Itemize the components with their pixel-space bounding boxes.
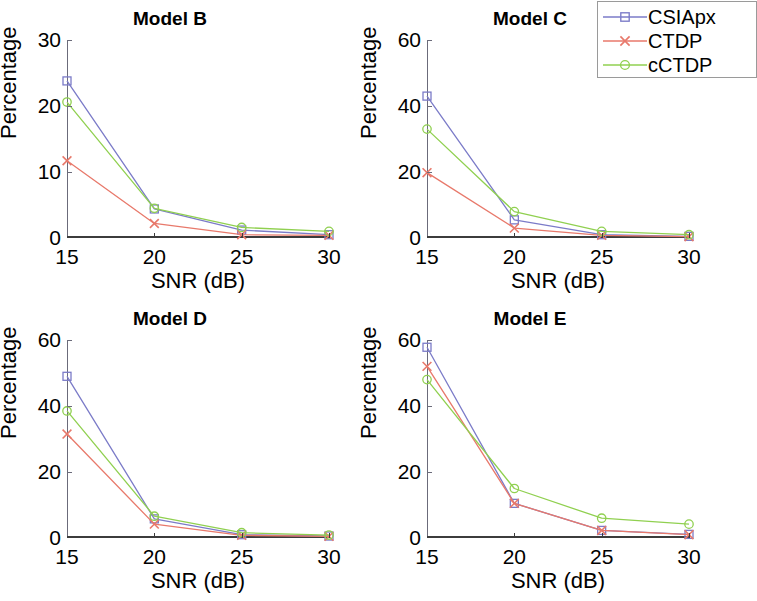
- series-line: [67, 81, 329, 235]
- series-layer: [427, 340, 689, 538]
- series-layer: [67, 340, 329, 538]
- x-tick-mark: [154, 233, 155, 238]
- series-marker: [63, 430, 72, 439]
- series-line: [67, 434, 329, 536]
- x-tick-mark: [689, 533, 690, 538]
- y-tick-label: 40: [38, 394, 61, 418]
- legend-sample-icon: [602, 31, 648, 51]
- y-axis-title: Percentage: [356, 26, 382, 139]
- plot-area: 020406015202530: [427, 340, 689, 538]
- y-tick-label: 40: [398, 394, 421, 418]
- series-marker: [63, 156, 72, 165]
- y-tick-label: 10: [38, 160, 61, 184]
- plot-area: 020406015202530: [67, 340, 329, 538]
- y-tick-mark: [427, 40, 432, 41]
- series-line: [67, 376, 329, 536]
- panel-title: Model B: [0, 8, 340, 30]
- series-line: [67, 161, 329, 236]
- series-line: [67, 102, 329, 231]
- legend-sample-icon: [602, 7, 648, 27]
- y-tick-mark: [67, 40, 72, 41]
- y-tick-label: 60: [38, 328, 61, 352]
- legend-label: CSIApx: [648, 7, 716, 27]
- legend-item[interactable]: CTDP: [598, 29, 756, 53]
- x-tick-mark: [602, 533, 603, 538]
- y-tick-label: 30: [38, 28, 61, 52]
- x-tick-label: 15: [415, 245, 438, 269]
- x-tick-mark: [602, 233, 603, 238]
- y-tick-label: 40: [398, 94, 421, 118]
- series-line: [427, 347, 689, 534]
- x-axis-title: SNR (dB): [67, 568, 329, 594]
- y-tick-mark: [67, 106, 72, 107]
- x-tick-label: 25: [230, 245, 253, 269]
- legend-item[interactable]: CSIApx: [598, 5, 756, 29]
- y-tick-mark: [67, 406, 72, 407]
- y-tick-mark: [67, 340, 72, 341]
- x-axis-title: SNR (dB): [427, 568, 689, 594]
- y-tick-label: 60: [398, 328, 421, 352]
- x-tick-label: 25: [590, 245, 613, 269]
- panel-title: Model D: [0, 308, 340, 330]
- panel-title: Model E: [380, 308, 680, 330]
- series-line: [427, 129, 689, 235]
- x-tick-label: 20: [143, 245, 166, 269]
- x-tick-mark: [242, 533, 243, 538]
- y-tick-mark: [427, 172, 432, 173]
- legend-label: cCTDP: [648, 55, 712, 75]
- y-axis-title: Percentage: [0, 26, 22, 139]
- x-tick-mark: [514, 533, 515, 538]
- x-tick-mark: [689, 233, 690, 238]
- x-axis-title: SNR (dB): [67, 268, 329, 294]
- series-line: [67, 411, 329, 535]
- y-tick-mark: [67, 472, 72, 473]
- y-tick-mark: [427, 472, 432, 473]
- y-tick-label: 20: [398, 160, 421, 184]
- x-tick-label: 30: [317, 245, 340, 269]
- y-tick-label: 20: [398, 460, 421, 484]
- x-tick-label: 15: [55, 545, 78, 569]
- y-axis-title: Percentage: [0, 326, 22, 439]
- series-marker: [510, 499, 519, 508]
- x-tick-label: 15: [415, 545, 438, 569]
- x-tick-mark: [514, 233, 515, 238]
- chart-panel-model-e: Model E Percentage 020406015202530 SNR (…: [360, 300, 720, 600]
- x-tick-label: 15: [55, 245, 78, 269]
- y-axis-title: Percentage: [356, 326, 382, 439]
- y-tick-mark: [427, 106, 432, 107]
- y-tick-label: 20: [38, 94, 61, 118]
- chart-panel-model-d: Model D Percentage 020406015202530 SNR (…: [0, 300, 360, 600]
- x-tick-mark: [154, 533, 155, 538]
- x-tick-label: 30: [677, 545, 700, 569]
- chart-panel-model-b: Model B Percentage 010203015202530 SNR (…: [0, 0, 360, 300]
- x-tick-label: 20: [503, 545, 526, 569]
- x-tick-label: 30: [317, 545, 340, 569]
- series-marker: [63, 372, 71, 380]
- y-tick-mark: [427, 406, 432, 407]
- x-tick-label: 25: [230, 545, 253, 569]
- series-marker: [423, 375, 431, 383]
- y-tick-mark: [67, 172, 72, 173]
- y-tick-mark: [427, 340, 432, 341]
- x-tick-label: 30: [677, 245, 700, 269]
- x-tick-label: 20: [503, 245, 526, 269]
- x-axis-title: SNR (dB): [427, 268, 689, 294]
- x-tick-label: 20: [143, 545, 166, 569]
- legend-sample-icon: [602, 55, 648, 75]
- series-layer: [67, 40, 329, 238]
- series-marker: [63, 98, 71, 106]
- x-tick-mark: [329, 233, 330, 238]
- plot-area: 010203015202530: [67, 40, 329, 238]
- series-marker: [423, 362, 432, 371]
- legend-label: CTDP: [648, 31, 702, 51]
- x-tick-mark: [329, 533, 330, 538]
- legend-item[interactable]: cCTDP: [598, 53, 756, 77]
- x-tick-label: 25: [590, 545, 613, 569]
- series-line: [427, 380, 689, 525]
- y-tick-label: 60: [398, 28, 421, 52]
- x-tick-mark: [242, 233, 243, 238]
- y-tick-label: 20: [38, 460, 61, 484]
- series-line: [427, 366, 689, 534]
- chart-legend: CSIApx CTDP cCTDP: [597, 1, 757, 78]
